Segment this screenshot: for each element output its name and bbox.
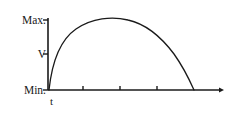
y-axis-label-v: V — [38, 48, 46, 60]
x-axis-arrow-icon — [219, 87, 224, 92]
y-axis-label-max: Max. — [22, 14, 46, 26]
voltage-curve — [49, 18, 194, 90]
x-axis-label-t: t — [50, 95, 53, 107]
voltage-time-plot: Max. V Min. t — [0, 0, 226, 115]
y-axis-label-min: Min. — [24, 84, 46, 96]
